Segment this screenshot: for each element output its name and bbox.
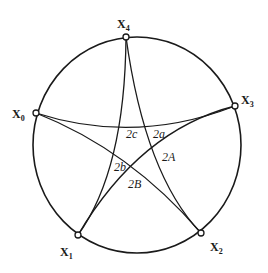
vertex-label-x4: X4 (117, 17, 130, 33)
vertex-point-x0 (33, 110, 39, 116)
angle-label-2b: 2b (114, 160, 126, 174)
vertex-label-x1: X1 (60, 245, 73, 261)
vertex-point-x2 (198, 230, 204, 236)
vertex-label-x3: X3 (241, 93, 254, 109)
angle-label-2b: 2B (128, 177, 142, 191)
vertex-point-x4 (123, 34, 129, 40)
angle-label-2c: 2c (126, 127, 138, 141)
vertex-label-x2: X2 (210, 240, 223, 256)
angle-label-2a: 2a (153, 127, 165, 141)
arc-x0-x3 (36, 106, 235, 127)
vertex-label-x0: X0 (12, 107, 25, 123)
angle-label-2a: 2A (162, 150, 176, 164)
vertex-point-x1 (75, 232, 81, 238)
vertex-point-x3 (232, 103, 238, 109)
spherical-pentagram-diagram: X0X1X2X3X4 2c2a2A2b2B (0, 0, 268, 273)
great-circle (33, 37, 241, 253)
